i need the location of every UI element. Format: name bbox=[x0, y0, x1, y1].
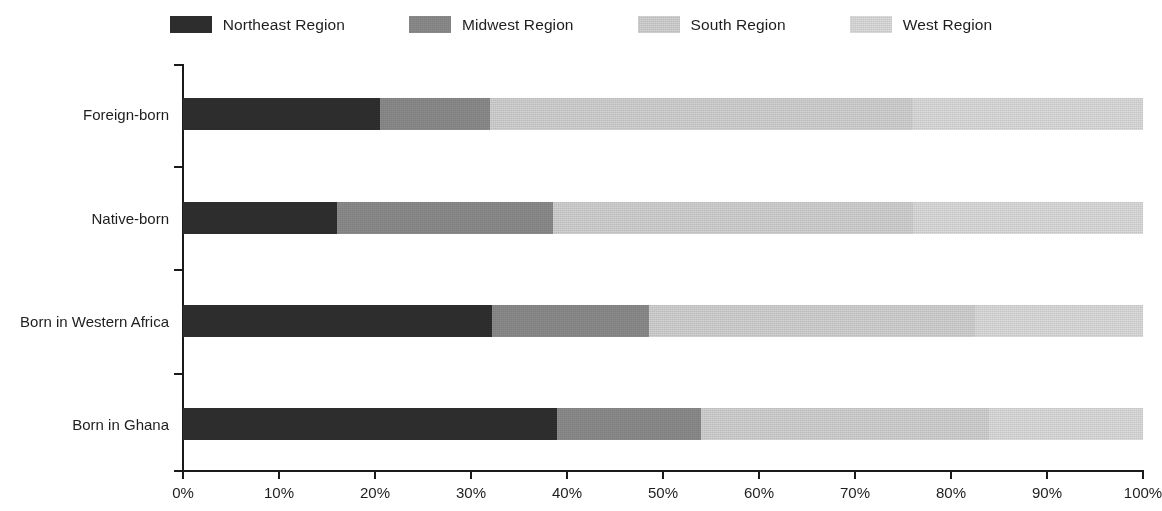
x-axis-tick-label: 20% bbox=[360, 484, 390, 501]
chart-legend: Northeast Region Midwest Region South Re… bbox=[0, 12, 1162, 36]
x-axis-tick bbox=[278, 470, 280, 479]
bar-born-in-ghana bbox=[183, 408, 1143, 440]
legend-swatch-midwest-icon bbox=[409, 16, 451, 33]
bar-segment-northeast-region bbox=[183, 202, 337, 234]
legend-item-west: West Region bbox=[850, 16, 993, 33]
x-axis-tick-label: 70% bbox=[840, 484, 870, 501]
x-axis-tick-label: 80% bbox=[936, 484, 966, 501]
legend-item-south: South Region bbox=[638, 16, 786, 33]
bar-segment-midwest-region bbox=[557, 408, 701, 440]
x-axis-tick bbox=[566, 470, 568, 479]
bar-foreign-born bbox=[183, 98, 1143, 130]
y-axis-label-foreign-born: Foreign-born bbox=[0, 106, 183, 123]
bar-segment-west-region bbox=[989, 408, 1143, 440]
legend-swatch-northeast-icon bbox=[170, 16, 212, 33]
y-axis-top-cap bbox=[174, 64, 183, 66]
legend-swatch-west-icon bbox=[850, 16, 892, 33]
bar-segment-northeast-region bbox=[183, 305, 492, 337]
bar-segment-south-region bbox=[701, 408, 989, 440]
legend-label-south: South Region bbox=[691, 16, 786, 33]
bar-segment-south-region bbox=[553, 202, 913, 234]
x-axis-tick-label: 30% bbox=[456, 484, 486, 501]
x-axis-tick-label: 50% bbox=[648, 484, 678, 501]
bar-segment-west-region bbox=[913, 98, 1143, 130]
x-axis-tick-label: 60% bbox=[744, 484, 774, 501]
bar-segment-midwest-region bbox=[337, 202, 553, 234]
legend-swatch-south-icon bbox=[638, 16, 680, 33]
bar-segment-northeast-region bbox=[183, 98, 380, 130]
x-axis-tick bbox=[470, 470, 472, 479]
x-axis-tick bbox=[1046, 470, 1048, 479]
x-axis-tick-label: 100% bbox=[1124, 484, 1162, 501]
bar-segment-west-region bbox=[975, 305, 1143, 337]
y-axis-label-born-in-ghana: Born in Ghana bbox=[0, 416, 183, 433]
x-axis-tick bbox=[662, 470, 664, 479]
legend-item-northeast: Northeast Region bbox=[170, 16, 345, 33]
stacked-bar-chart: Northeast Region Midwest Region South Re… bbox=[0, 0, 1162, 511]
plot-area: Foreign-bornNative-bornBorn in Western A… bbox=[183, 64, 1143, 470]
bar-segment-south-region bbox=[649, 305, 975, 337]
x-axis-tick-label: 40% bbox=[552, 484, 582, 501]
bar-native-born bbox=[183, 202, 1143, 234]
legend-label-northeast: Northeast Region bbox=[223, 16, 345, 33]
x-axis-tick-label: 10% bbox=[264, 484, 294, 501]
y-axis-label-born-in-western-africa: Born in Western Africa bbox=[0, 313, 183, 330]
x-axis-tick bbox=[854, 470, 856, 479]
bar-segment-midwest-region bbox=[380, 98, 490, 130]
x-axis-tick bbox=[950, 470, 952, 479]
y-axis-tick bbox=[174, 373, 183, 375]
x-axis-tick-label: 0% bbox=[172, 484, 194, 501]
x-axis-tick bbox=[1142, 470, 1144, 479]
legend-label-west: West Region bbox=[903, 16, 993, 33]
y-axis-tick bbox=[174, 166, 183, 168]
bar-segment-south-region bbox=[490, 98, 912, 130]
y-axis-label-native-born: Native-born bbox=[0, 210, 183, 227]
x-axis-tick bbox=[374, 470, 376, 479]
bar-segment-midwest-region bbox=[492, 305, 648, 337]
y-axis-tick bbox=[174, 269, 183, 271]
bar-segment-west-region bbox=[913, 202, 1143, 234]
bar-born-in-western-africa bbox=[183, 305, 1143, 337]
legend-label-midwest: Midwest Region bbox=[462, 16, 574, 33]
bar-segment-northeast-region bbox=[183, 408, 557, 440]
legend-item-midwest: Midwest Region bbox=[409, 16, 574, 33]
x-axis-tick bbox=[758, 470, 760, 479]
x-axis-tick bbox=[182, 470, 184, 479]
x-axis-tick-label: 90% bbox=[1032, 484, 1062, 501]
